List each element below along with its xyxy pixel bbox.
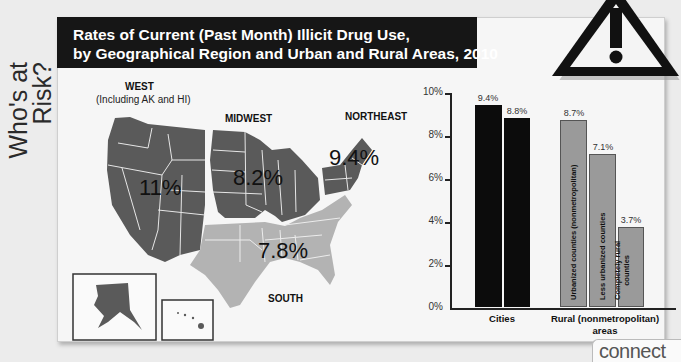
bar-value-label: 8.8% <box>497 106 537 116</box>
figure-title: Rates of Current (Past Month) Illicit Dr… <box>73 25 498 63</box>
x-category-cities: Cities <box>472 313 532 325</box>
y-tick-label: 2% <box>410 258 443 269</box>
y-tick-label: 8% <box>410 129 443 140</box>
bar-completely-rural-counties: Completely rural counties <box>618 227 644 307</box>
region-value-west: 11% <box>139 175 181 201</box>
region-label-south: SOUTH <box>268 293 303 304</box>
connect-logo: connect <box>592 339 681 362</box>
bar-chart: 10% 8% 6% 4% 2% 0% 9.4% 8.8% Urbanized c… <box>410 85 680 345</box>
region-label-west: WEST <box>125 81 154 92</box>
side-title-line1: Who's at <box>6 62 30 302</box>
figure-header: Rates of Current (Past Month) Illicit Dr… <box>57 17 477 68</box>
side-title-line2: Risk? <box>30 62 54 302</box>
y-axis <box>450 93 452 309</box>
bar-value-label: 7.1% <box>583 142 623 152</box>
inset-alaska <box>73 274 156 340</box>
y-tick <box>445 265 451 267</box>
y-tick <box>445 93 451 95</box>
region-label-northeast: NORTHEAST <box>345 111 407 122</box>
bar-inner-label: Urbanized counties (nonmetropolitan) <box>569 165 578 300</box>
x-axis <box>450 308 676 310</box>
x-category-rural: Rural (nonmetropolitan) areas <box>550 313 660 337</box>
y-tick-label: 6% <box>410 172 443 183</box>
bar-inner-label-line1: Completely rural <box>613 241 622 300</box>
bar-value-label: 3.7% <box>611 215 651 225</box>
bar-cities-1 <box>475 105 502 307</box>
figure-title-line2: by Geographical Region and Urban and Rur… <box>73 44 498 63</box>
bar-value-label: 8.7% <box>554 108 594 118</box>
bar-inner-label: Completely rural counties <box>613 241 631 300</box>
region-value-south: 7.8% <box>258 238 308 264</box>
bar-less-urbanized-counties: Less urbanized counties <box>589 154 616 307</box>
bar-inner-label-line2: counties <box>622 241 631 300</box>
figure-title-line1: Rates of Current (Past Month) Illicit Dr… <box>73 25 498 44</box>
region-note-west: (Including AK and HI) <box>96 94 191 105</box>
warning-icon <box>470 0 681 80</box>
y-tick-label: 10% <box>410 86 443 97</box>
bar-inner-label: Less urbanized counties <box>598 212 607 300</box>
inset-hawaii <box>162 300 213 340</box>
y-tick-label: 0% <box>410 301 443 312</box>
bar-value-label: 9.4% <box>468 93 508 103</box>
region-label-midwest: MIDWEST <box>225 113 272 124</box>
y-tick <box>445 136 451 138</box>
region-value-northeast: 9.4% <box>329 145 379 171</box>
bar-cities-2 <box>504 118 530 307</box>
y-tick <box>445 222 451 224</box>
x-category-rural-line2: areas <box>550 325 660 337</box>
y-tick <box>445 179 451 181</box>
region-value-midwest: 8.2% <box>233 165 283 191</box>
side-title: Who's at Risk? <box>2 62 58 302</box>
x-category-rural-line1: Rural (nonmetropolitan) <box>550 313 660 325</box>
y-tick-label: 4% <box>410 215 443 226</box>
